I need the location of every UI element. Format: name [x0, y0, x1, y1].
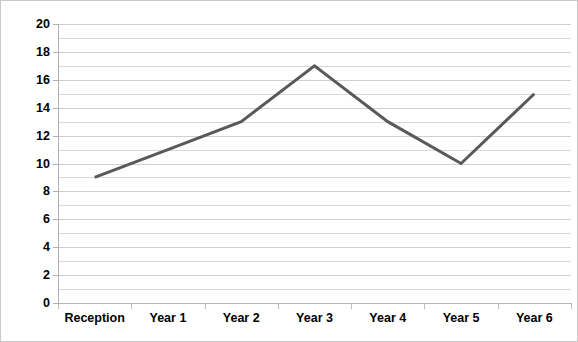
y-axis-tick-label: 4	[43, 241, 50, 254]
gridline	[58, 219, 571, 220]
x-axis-category-label: Year 4	[369, 312, 406, 326]
gridline	[58, 164, 571, 165]
y-axis-tick	[53, 191, 59, 192]
gridline	[58, 94, 571, 95]
y-axis-tick-label: 8	[43, 185, 50, 198]
y-axis-tick-label: 20	[36, 18, 50, 31]
x-axis-category-label: Reception	[64, 312, 124, 326]
x-axis-line	[58, 303, 572, 304]
gridline	[58, 205, 571, 206]
x-axis-tick	[498, 303, 499, 309]
x-axis-tick	[131, 303, 132, 309]
y-axis-tick	[53, 108, 59, 109]
y-axis-tick	[53, 80, 59, 81]
y-axis-tick-label: 18	[36, 46, 50, 59]
x-axis-category-label: Year 6	[516, 312, 553, 326]
plot-area	[58, 24, 571, 303]
y-axis-tick-label: 2	[43, 269, 50, 282]
x-axis-tick	[278, 303, 279, 309]
y-axis-tick	[53, 219, 59, 220]
gridline	[58, 24, 571, 25]
gridline	[58, 136, 571, 137]
gridline	[58, 247, 571, 248]
gridline	[58, 38, 571, 39]
x-axis-category-label: Year 2	[223, 312, 260, 326]
y-axis-tick	[53, 52, 59, 53]
gridline	[58, 233, 571, 234]
y-axis-tick	[53, 247, 59, 248]
y-axis-tick-label: 14	[36, 101, 50, 114]
y-axis-tick	[53, 303, 59, 304]
gridline	[58, 191, 571, 192]
gridline	[58, 150, 571, 151]
x-axis-tick	[571, 303, 572, 309]
gridline	[58, 289, 571, 290]
gridline	[58, 80, 571, 81]
x-axis-tick	[351, 303, 352, 309]
x-axis-tick	[424, 303, 425, 309]
x-axis-tick	[205, 303, 206, 309]
y-axis-tick-label: 12	[36, 129, 50, 142]
gridline	[58, 66, 571, 67]
x-axis-category-label: Year 5	[443, 312, 480, 326]
y-axis-tick-label: 16	[36, 74, 50, 87]
gridline	[58, 261, 571, 262]
gridline	[58, 122, 571, 123]
y-axis-tick-label: 6	[43, 213, 50, 226]
line-chart: 02468101214161820 ReceptionYear 1Year 2Y…	[0, 0, 578, 342]
gridline	[58, 275, 571, 276]
gridline	[58, 177, 571, 178]
y-axis-labels: 02468101214161820	[1, 1, 50, 342]
y-axis-tick	[53, 136, 59, 137]
y-axis-tick	[53, 24, 59, 25]
x-axis-category-label: Year 3	[296, 312, 333, 326]
gridline	[58, 52, 571, 53]
x-axis-category-label: Year 1	[150, 312, 187, 326]
y-axis-tick	[53, 275, 59, 276]
gridline	[58, 108, 571, 109]
y-axis-tick-label: 10	[36, 157, 50, 170]
y-axis-tick-label: 0	[43, 297, 50, 310]
y-axis-tick	[53, 164, 59, 165]
